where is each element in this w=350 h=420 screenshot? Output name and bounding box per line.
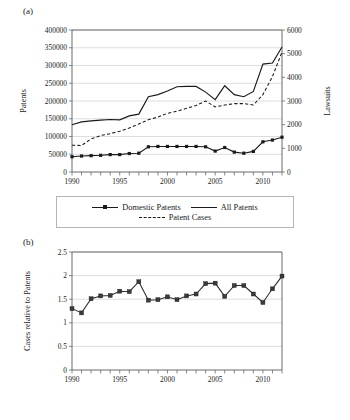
x-ticklabel: 1995 [112,375,127,384]
panel-a-tag: (a) [23,6,33,16]
data-point-domestic-patents [166,145,169,148]
series-cases-relative-to-patents [72,276,282,313]
data-point-cases-relative-to-patents [251,292,255,296]
data-point-cases-relative-to-patents [127,290,131,294]
data-point-cases-relative-to-patents [80,311,84,315]
data-point-domestic-patents [223,146,226,149]
data-point-domestic-patents [175,145,178,148]
data-point-domestic-patents [214,149,217,152]
y-ticklabel-left: 350000 [45,43,67,52]
data-point-domestic-patents [128,152,131,155]
y-ticklabel: 2.5 [58,248,68,257]
data-point-cases-relative-to-patents [223,294,227,298]
y-ticklabel-left: 150000 [45,114,67,123]
y-ticklabel-left: 300000 [45,61,67,70]
data-point-domestic-patents [109,153,112,156]
legend-label-domestic-patents: Domestic Patents [122,203,180,212]
y-ticklabel: 2 [63,271,67,280]
data-point-cases-relative-to-patents [70,307,74,311]
panel-b: (b) 00.511.522.519901995200020052010Case… [0,232,350,420]
y-ticklabel-right: 1000 [287,144,302,153]
data-point-cases-relative-to-patents [185,294,189,298]
legend-row-1: Domestic Patents All Patents [92,203,257,212]
y-ticklabel-right: 4000 [287,73,302,82]
x-ticklabel: 2005 [208,177,223,186]
data-point-cases-relative-to-patents [146,298,150,302]
y-ticklabel-left: 50000 [49,150,68,159]
legend-item-domestic-patents: Domestic Patents [92,203,180,212]
legend-item-patent-cases: Patent Cases [139,213,212,222]
data-point-domestic-patents [70,155,73,158]
legend-label-patent-cases: Patent Cases [169,213,212,222]
legend-item-all-patents: All Patents [191,203,258,212]
legend-swatch-dashed-line-icon [139,213,165,222]
data-point-cases-relative-to-patents [89,297,93,301]
data-point-domestic-patents [204,145,207,148]
y-ticklabel-left: 100000 [45,132,67,141]
x-ticklabel: 1990 [65,375,80,384]
data-point-domestic-patents [271,138,274,141]
x-ticklabel: 2010 [256,177,271,186]
y-ticklabel-left: 0 [63,168,67,177]
y-ticklabel: 0.5 [58,342,68,351]
data-point-domestic-patents [99,154,102,157]
data-point-cases-relative-to-patents [175,298,179,302]
data-point-cases-relative-to-patents [270,287,274,291]
y-ticklabel-right: 3000 [287,97,302,106]
legend: Domestic Patents All Patents Patent Case… [56,196,294,228]
x-ticklabel: 2005 [208,375,223,384]
data-point-cases-relative-to-patents [242,284,246,288]
data-point-domestic-patents [242,152,245,155]
x-ticklabel: 1990 [65,177,80,186]
data-point-cases-relative-to-patents [165,295,169,299]
y-ticklabel-right: 2000 [287,120,302,129]
y-axis-title-right: Lawsuits [323,86,332,116]
y-ticklabel-right: 6000 [287,26,302,35]
x-ticklabel: 2000 [160,375,175,384]
data-point-cases-relative-to-patents [99,294,103,298]
series-patent-cases [72,52,282,145]
y-ticklabel: 0 [63,366,67,375]
y-ticklabel-left: 400000 [45,26,67,35]
x-ticklabel: 2000 [160,177,175,186]
y-ticklabel: 1.5 [58,295,68,304]
y-ticklabel-left: 250000 [45,79,67,88]
y-ticklabel: 1 [63,318,67,327]
x-ticklabel: 1995 [112,177,127,186]
y-ticklabel-right: 0 [287,168,291,177]
y-ticklabel-right: 5000 [287,49,302,58]
series-all-patents [72,47,282,125]
data-point-cases-relative-to-patents [213,281,217,285]
data-point-cases-relative-to-patents [261,301,265,305]
data-point-domestic-patents [137,152,140,155]
x-ticklabel: 2010 [256,375,271,384]
figure-patents-lawsuits: (a) 050000100000150000200000250000300000… [0,0,350,420]
data-point-domestic-patents [118,153,121,156]
data-point-domestic-patents [280,136,283,139]
legend-swatch-line-square-icon [92,203,118,212]
panel-b-tag: (b) [23,237,34,247]
data-point-domestic-patents [156,145,159,148]
data-point-domestic-patents [147,145,150,148]
data-point-domestic-patents [261,140,264,143]
data-point-cases-relative-to-patents [280,274,284,278]
data-point-cases-relative-to-patents [156,298,160,302]
legend-swatch-solid-line-icon [191,203,217,212]
y-axis-title-left: Patents [19,89,28,113]
data-point-domestic-patents [89,154,92,157]
data-point-domestic-patents [80,154,83,157]
data-point-domestic-patents [252,150,255,153]
data-point-cases-relative-to-patents [108,293,112,297]
data-point-domestic-patents [194,145,197,148]
data-point-cases-relative-to-patents [204,282,208,286]
panel-b-plot: 00.511.522.519901995200020052010Cases re… [0,232,350,420]
data-point-cases-relative-to-patents [232,284,236,288]
y-axis-title: Cases relative to Patents [23,271,32,351]
data-point-domestic-patents [233,151,236,154]
panel-a: (a) 050000100000150000200000250000300000… [0,0,350,235]
data-point-cases-relative-to-patents [194,292,198,296]
legend-row-2: Patent Cases [139,213,212,222]
data-point-cases-relative-to-patents [137,280,141,284]
y-ticklabel-left: 200000 [45,97,67,106]
data-point-cases-relative-to-patents [118,289,122,293]
